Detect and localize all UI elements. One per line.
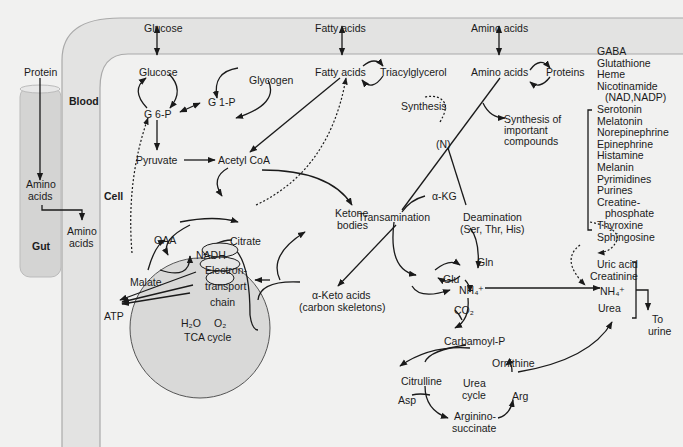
- compound-item: GABA: [597, 46, 669, 58]
- keto-acids-2: (carbon skeletons): [299, 301, 385, 313]
- citrate-label: Citrate: [230, 235, 261, 247]
- synthesis-important-3: compounds: [504, 135, 558, 147]
- acetyl-coa-label: Acetyl CoA: [218, 154, 270, 166]
- glycogen-label: Glycogen: [249, 74, 293, 86]
- triacylglycerol-label: Triacylglycerol: [380, 66, 447, 78]
- carbamoyl-p-label: Carbamoyl-P: [444, 335, 505, 347]
- blood-glucose-label: Glucose: [144, 22, 183, 34]
- compound-item: Thyroxine: [597, 220, 669, 232]
- synthesis-label: Synthesis: [401, 100, 447, 112]
- glucose-label: Glucose: [139, 66, 178, 78]
- oaa-label: OAA: [154, 234, 176, 246]
- etc-label-2: transport: [205, 280, 246, 292]
- glu-label: Glu: [443, 273, 459, 285]
- gut-compartment-label: Gut: [32, 240, 50, 252]
- excreted-nh4-label: NH₄⁺: [600, 285, 625, 297]
- keto-acids-1: α-Keto acids: [312, 289, 371, 301]
- argininosuccinate-1: Arginino-: [454, 410, 496, 422]
- malate-label: Malate: [130, 276, 162, 288]
- blood-band: [62, 18, 683, 447]
- nitrogen-label: (N): [436, 138, 451, 150]
- g6p-label: G 6-P: [144, 108, 171, 120]
- protein-label: Protein: [24, 66, 57, 78]
- compound-item: Sphingosine: [597, 232, 669, 244]
- compound-item: Norepinephrine: [597, 127, 669, 139]
- blood-fatty-acids-label: Fatty acids: [315, 22, 366, 34]
- blood-amino-acids-label: Amino acids: [471, 22, 528, 34]
- to-urine-2: urine: [648, 325, 671, 337]
- g1p-label: G 1-P: [208, 96, 235, 108]
- proteins-label: Proteins: [546, 66, 585, 78]
- blood-amino-acids-1: Amino: [67, 225, 97, 237]
- uric-acid-label: Uric acid: [597, 258, 638, 270]
- citrulline-label: Citrulline: [401, 375, 442, 387]
- gut-amino-acids-2: acids: [28, 190, 53, 202]
- etc-label-3: chain: [210, 296, 235, 308]
- tca-cycle-label: TCA cycle: [184, 331, 231, 343]
- cell-amino-acids-label: Amino acids: [471, 66, 528, 78]
- o2-label: O₂: [214, 317, 226, 329]
- important-compounds-list: GABA Glutathione Heme Nicotinamide (NAD,…: [597, 46, 669, 243]
- deamination-aa-label: (Ser, Thr, His): [460, 223, 525, 235]
- to-urine-1: To: [652, 313, 663, 325]
- etc-label-1: Electron-: [205, 264, 247, 276]
- blood-amino-acids-2: acids: [69, 237, 94, 249]
- creatinine-label: Creatinine: [590, 270, 638, 282]
- gut-amino-acids-1: Amino: [26, 178, 56, 190]
- akg-label: α-KG: [432, 190, 457, 202]
- h2o-label: H₂O: [181, 317, 201, 329]
- co2-label: CO₂: [454, 304, 474, 316]
- gln-label: Gln: [477, 256, 493, 268]
- compound-item: Serotonin: [597, 104, 669, 116]
- fatty-acids-label: Fatty acids: [315, 66, 366, 78]
- argininosuccinate-2: succinate: [452, 422, 496, 434]
- ornithine-label: Ornithine: [492, 357, 535, 369]
- deamination-label: Deamination: [463, 211, 522, 223]
- cell-compartment-label: Cell: [104, 190, 123, 202]
- compound-item: Melanin: [597, 162, 669, 174]
- urea-cycle-label-2: cycle: [462, 389, 486, 401]
- compound-item: Purines: [597, 185, 669, 197]
- transamination-label: Transamination: [358, 211, 430, 223]
- urea-label: Urea: [598, 302, 621, 314]
- atp-label: ATP: [104, 310, 124, 322]
- arg-label: Arg: [512, 390, 528, 402]
- urea-cycle-label-1: Urea: [463, 377, 486, 389]
- nadh-label: NADH: [196, 249, 226, 261]
- blood-compartment-label: Blood: [69, 95, 99, 107]
- asp-label: Asp: [398, 394, 416, 406]
- nh4-label: NH₄⁺: [459, 284, 484, 296]
- pyruvate-label: Pyruvate: [136, 154, 177, 166]
